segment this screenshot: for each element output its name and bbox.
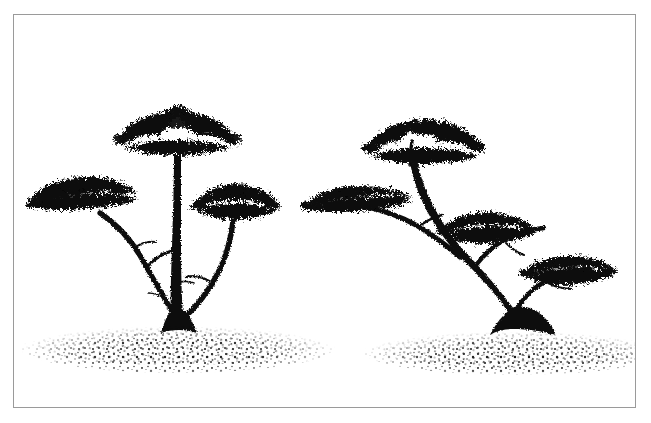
tree-right [300,119,635,375]
ground-left [19,321,335,373]
illustration-canvas: Two savanna acacia trees [14,15,635,407]
two-trees-drawing: Two savanna acacia trees [14,15,635,407]
canopy-top-left-tree [118,105,236,155]
tree-left [19,105,335,373]
ground-right [362,327,635,375]
tree-left-trunk-system [100,155,233,333]
figure-root: Two savanna acacia trees [0,0,651,423]
